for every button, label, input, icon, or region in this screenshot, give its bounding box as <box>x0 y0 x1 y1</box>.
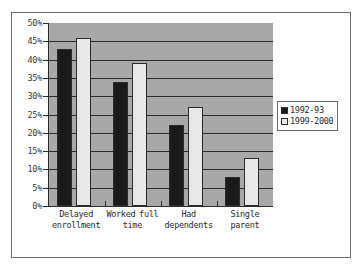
legend-item: 1992-93 <box>281 105 333 116</box>
category-separator <box>161 201 162 206</box>
x-tick-label: Single parent <box>217 209 273 257</box>
bar-group <box>105 23 161 206</box>
x-tick-label: Worked full time <box>104 209 160 257</box>
legend-label: 1999-2000 <box>290 117 333 126</box>
bar <box>76 38 91 206</box>
y-tick-label: 5% <box>32 183 42 192</box>
x-axis: Delayed enrollmentWorked full timeHad de… <box>48 209 273 257</box>
y-tick-label: 30% <box>28 92 42 101</box>
bar <box>57 49 72 206</box>
chart-legend: 1992-931999-2000 <box>277 101 338 131</box>
y-tick-label: 15% <box>28 147 42 156</box>
legend-item: 1999-2000 <box>281 116 333 127</box>
bar <box>169 125 184 206</box>
x-tick-label: Had dependents <box>161 209 217 257</box>
y-axis: 50%45%40%35%30%25%20%15%10%5%0% <box>12 13 48 207</box>
bar-group <box>161 23 217 206</box>
bar <box>188 107 203 206</box>
bar-group <box>217 23 273 206</box>
bar <box>132 63 147 206</box>
y-tick-label: 40% <box>28 55 42 64</box>
y-tick-label: 0% <box>32 202 42 211</box>
bar <box>113 82 128 206</box>
chart-frame: 50%45%40%35%30%25%20%15%10%5%0% Delayed … <box>11 12 351 258</box>
legend-swatch <box>281 107 288 114</box>
bar <box>244 158 259 206</box>
y-tick-label: 25% <box>28 110 42 119</box>
category-separator <box>217 201 218 206</box>
bar <box>225 177 240 206</box>
x-tick-label: Delayed enrollment <box>48 209 104 257</box>
plot-area <box>48 23 273 207</box>
y-tick-label: 10% <box>28 165 42 174</box>
category-separator <box>105 201 106 206</box>
y-tick-label: 20% <box>28 129 42 138</box>
y-tick-label: 50% <box>28 19 42 28</box>
legend-swatch <box>281 118 288 125</box>
legend-label: 1992-93 <box>290 106 324 115</box>
y-tick-label: 45% <box>28 37 42 46</box>
y-tick-label: 35% <box>28 74 42 83</box>
bar-group <box>49 23 105 206</box>
